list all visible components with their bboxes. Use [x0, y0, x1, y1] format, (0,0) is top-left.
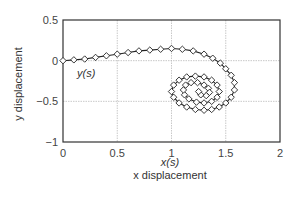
diamond-marker [194, 79, 200, 85]
diamond-marker [183, 74, 189, 80]
diamond-marker [157, 46, 163, 52]
trajectory-markers [60, 45, 238, 113]
diamond-marker [103, 53, 109, 59]
diamond-marker [210, 55, 216, 61]
diamond-marker [190, 48, 196, 54]
diamond-marker [231, 79, 237, 85]
diamond-marker [92, 54, 98, 60]
diamond-marker [71, 57, 77, 63]
y-tick-label: 0.5 [43, 14, 58, 26]
y-tick-label: 0 [52, 55, 58, 67]
y-tick-label: −0.5 [36, 95, 58, 107]
diamond-marker [136, 48, 142, 54]
diamond-marker [179, 46, 185, 52]
x-tick-label: 0.5 [110, 147, 125, 159]
x-s-annotation: x(s) [160, 156, 180, 168]
diamond-marker [231, 87, 237, 93]
diamond-marker [82, 56, 88, 62]
diamond-marker [125, 49, 131, 55]
diamond-marker [60, 57, 66, 63]
diamond-marker [201, 51, 207, 57]
diamond-marker [192, 73, 198, 79]
diamond-marker [114, 51, 120, 57]
x-tick-label: 0 [60, 147, 66, 159]
diamond-marker [193, 99, 199, 105]
diamond-marker [208, 106, 214, 112]
x-axis-label: x displacement [133, 169, 206, 181]
gridlines [63, 20, 280, 142]
y-tick-labels: 0.50−0.5−1 [36, 14, 58, 148]
diamond-marker [192, 106, 198, 112]
y-axis-label: y displacement [12, 47, 24, 120]
diamond-marker [201, 74, 207, 80]
diamond-marker [201, 107, 207, 113]
diamond-marker [201, 100, 207, 106]
diamond-marker [216, 104, 222, 110]
y-tick-label: −1 [45, 136, 58, 148]
diamond-marker [147, 47, 153, 53]
x-tick-label: 2 [277, 147, 283, 159]
spiral-chart: 00.511.52 0.50−0.5−1 y(s) x(s) x displac… [0, 0, 294, 197]
diamond-marker [183, 104, 189, 110]
diamond-marker [168, 45, 174, 51]
y-s-annotation: y(s) [76, 67, 96, 79]
x-tick-label: 1.5 [218, 147, 233, 159]
